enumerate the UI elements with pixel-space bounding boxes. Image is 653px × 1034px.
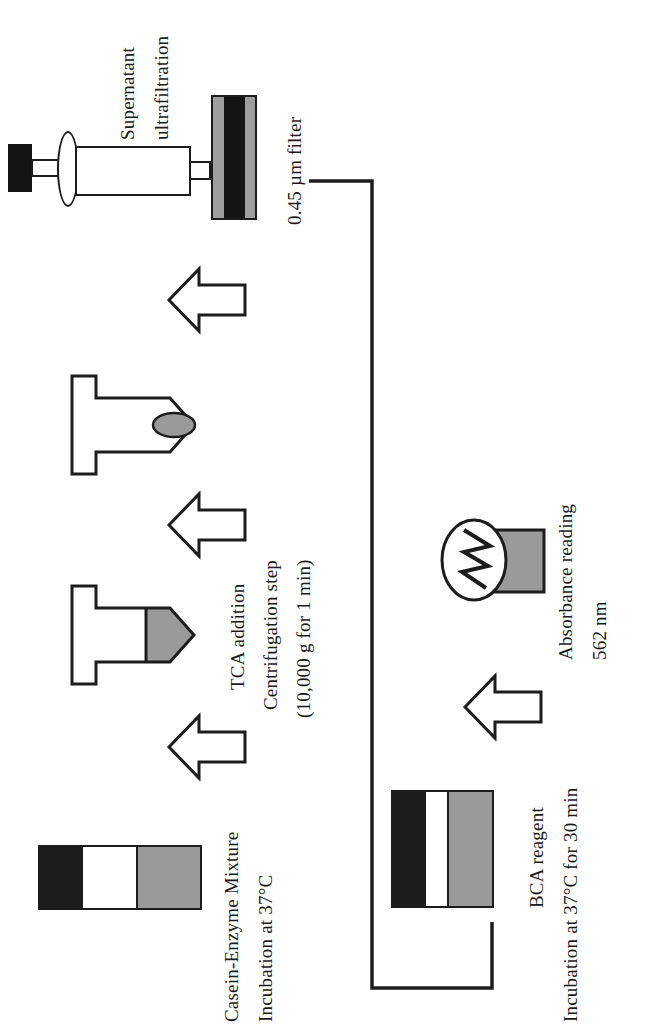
label-incubation-37c-30min: Incubation at 37°C for 30 min	[561, 788, 580, 1023]
spectrophotometer-lamp-icon	[432, 508, 552, 618]
membrane-filter-icon	[211, 95, 257, 220]
label-bca-reagent: BCA reagent	[527, 807, 546, 908]
filter-layer-outer-top	[213, 97, 224, 218]
casein-enzyme-cuvette-icon	[38, 845, 202, 910]
syringe-barrel-icon	[75, 146, 191, 196]
cuvette-band-gray	[136, 847, 200, 908]
filter-layer-outer-bottom	[245, 97, 256, 218]
syringe-nozzle-icon	[189, 161, 211, 180]
flow-arrow-to-ultrafiltration-icon	[165, 265, 249, 335]
label-centrifugation-step: Centrifugation step	[261, 560, 280, 710]
workflow-diagram: Supernatant ultrafiltration 0.45 µm filt…	[0, 0, 653, 1034]
label-supernatant: Supernatant	[118, 47, 137, 140]
label-casein-enzyme: Casein-Enzyme Mixture	[222, 832, 241, 1022]
label-tca-addition: TCA addition	[228, 584, 247, 690]
label-wavelength: 562 nm	[590, 601, 609, 660]
syringe-plunger-thumbrest-icon	[8, 144, 32, 192]
label-centrifugation-params: (10,000 g for 1 min)	[294, 559, 313, 718]
microcentrifuge-tube-pellet-icon	[66, 372, 218, 482]
cuvette-band-light	[81, 847, 136, 908]
flow-arrow-to-absorbance-icon	[461, 672, 545, 742]
label-filter-spec: 0.45 µm filter	[285, 117, 304, 225]
bca-band-dark	[393, 792, 424, 906]
filter-layer-membrane	[224, 97, 245, 218]
microcentrifuge-tube-filled-icon	[66, 582, 218, 692]
bca-band-light	[424, 792, 447, 906]
cuvette-band-dark	[40, 847, 81, 908]
bca-reagent-cuvette-icon	[391, 790, 494, 908]
flow-arrow-to-tca-icon	[165, 712, 249, 782]
label-incubation-37c: Incubation at 37°C	[256, 875, 275, 1022]
flow-arrow-to-centrifugation-icon	[165, 490, 249, 560]
label-absorbance-reading: Absorbance reading	[556, 504, 575, 660]
label-ultrafiltration: ultrafiltration	[152, 36, 171, 140]
bca-band-gray	[447, 792, 492, 906]
